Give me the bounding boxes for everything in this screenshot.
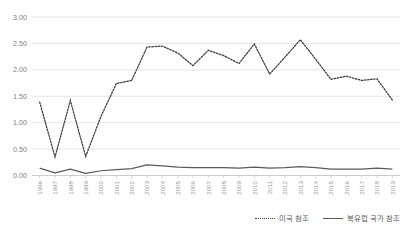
x-axis-tick-label: 2008 xyxy=(220,180,227,194)
x-axis-tick-label: 2010 xyxy=(251,180,258,194)
legend-swatch-dotted-icon xyxy=(255,214,275,221)
series-layer xyxy=(40,40,393,174)
x-axis-tick-label: 2011 xyxy=(266,180,273,194)
legend-item-nordic[interactable]: 북유럽 국가 참조 xyxy=(323,212,400,223)
series-line-nordic xyxy=(40,165,393,173)
legend-label-us: 미국 참조 xyxy=(279,212,309,223)
x-axis-tick-label: 2003 xyxy=(143,180,150,194)
line-chart: 0.000.501.001.502.002.503.00 19961997199… xyxy=(0,0,408,228)
x-axis-tick-label: 2004 xyxy=(159,180,166,194)
y-axis-tick-label: 1.00 xyxy=(13,118,27,127)
x-axis-tick-label: 2014 xyxy=(312,180,319,194)
x-axis-tick-label: 2019 xyxy=(389,180,396,194)
x-axis-tick-label: 2009 xyxy=(235,180,242,194)
x-axis-tick-label: 2007 xyxy=(205,180,212,194)
x-axis-tick-label: 2016 xyxy=(343,180,350,194)
legend-swatch-solid-icon xyxy=(323,214,343,221)
series-line-us xyxy=(40,40,393,157)
x-axis-tickmarks xyxy=(40,176,393,179)
y-axis-tick-label: 2.00 xyxy=(13,65,27,74)
x-axis-tick-label: 2001 xyxy=(113,180,120,194)
y-axis-tick-label: 0.00 xyxy=(13,171,27,180)
x-axis-tick-label: 2000 xyxy=(97,180,104,194)
y-axis-tick-labels: 0.000.501.001.502.002.503.00 xyxy=(13,13,27,181)
gridlines xyxy=(32,17,400,149)
y-axis-tick-label: 1.50 xyxy=(13,92,27,101)
x-axis-tick-label: 1998 xyxy=(67,180,74,194)
x-axis-tick-label: 2006 xyxy=(189,180,196,194)
x-axis-tick-label: 2005 xyxy=(174,180,181,194)
x-axis-tick-label: 2012 xyxy=(281,180,288,194)
x-axis-tick-label: 2013 xyxy=(297,180,304,194)
x-axis-tick-label: 2015 xyxy=(327,180,334,194)
x-axis-tick-label: 2017 xyxy=(358,180,365,194)
y-axis-tick-label: 0.50 xyxy=(13,145,27,154)
chart-plot-area: 0.000.501.001.502.002.503.00 19961997199… xyxy=(0,0,408,228)
x-axis-tick-label: 2018 xyxy=(373,180,380,194)
y-axis-tick-label: 3.00 xyxy=(13,13,27,22)
legend-item-us[interactable]: 미국 참조 xyxy=(255,212,309,223)
y-axis-tick-label: 2.50 xyxy=(13,39,27,48)
x-axis-tick-label: 1997 xyxy=(51,180,58,194)
x-axis-tick-label: 1996 xyxy=(36,180,43,194)
x-axis-tick-label: 1999 xyxy=(82,180,89,194)
legend-label-nordic: 북유럽 국가 참조 xyxy=(347,212,400,223)
x-axis-tick-labels: 1996199719981999200020012002200320042005… xyxy=(36,180,396,194)
chart-legend: 미국 참조 북유럽 국가 참조 xyxy=(0,212,400,223)
x-axis-tick-label: 2002 xyxy=(128,180,135,194)
